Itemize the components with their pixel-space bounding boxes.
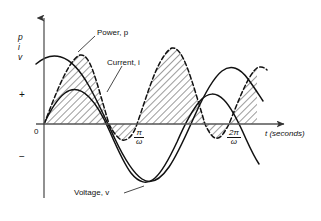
- x-axis-title: t (seconds): [265, 130, 305, 138]
- y-axis-label-v: v: [18, 52, 23, 62]
- x-axis-title-text: t (seconds): [265, 129, 305, 138]
- x-tick-2pi-over-omega: 2π ω: [227, 129, 241, 146]
- voltage-label: Voltage, v: [74, 189, 109, 197]
- current-leader-line: [107, 66, 122, 92]
- x-tick-2pi-numerator: 2π: [227, 129, 241, 137]
- x-tick-pi-denominator: ω: [134, 137, 144, 146]
- x-tick-pi-over-omega: π ω: [134, 129, 144, 146]
- power-label: Power, p: [97, 29, 128, 37]
- power-current-voltage-waveform-figure: p i v + − 0 π ω 2π ω t (seconds) Power, …: [0, 0, 321, 221]
- x-tick-pi-numerator: π: [134, 129, 144, 137]
- power-leader-line: [78, 36, 95, 52]
- y-axis-label-p: p: [18, 32, 23, 42]
- y-axis-quantity-stack: p i v: [18, 32, 23, 62]
- positive-sign-label: +: [19, 90, 25, 100]
- voltage-leader-line: [124, 186, 144, 193]
- power-hatched-area: [44, 48, 257, 140]
- origin-label: 0: [34, 128, 38, 136]
- current-label: Current, i: [107, 59, 140, 67]
- waveform-plot: [0, 0, 321, 221]
- x-tick-2pi-denominator: ω: [227, 137, 241, 146]
- y-axis-label-i: i: [18, 42, 23, 52]
- negative-sign-label: −: [19, 152, 25, 162]
